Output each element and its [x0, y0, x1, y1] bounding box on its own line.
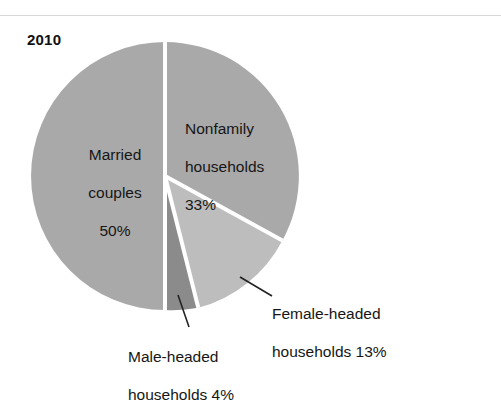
pie-label-married-couples-line1: Married — [60, 145, 170, 164]
pie-label-male-headed-households: Male-headed households 4% — [128, 328, 298, 404]
pie-label-nonfamily-households-line2: households — [185, 157, 315, 176]
pie-label-nonfamily-households-value: 33% — [185, 195, 315, 214]
pie-label-female-headed-households-line1: Female-headed — [272, 304, 432, 323]
pie-label-nonfamily-households-line1: Nonfamily — [185, 119, 315, 138]
pie-label-male-headed-households-line1: Male-headed — [128, 347, 298, 366]
pie-label-married-couples-line2: couples — [60, 183, 170, 202]
leader-line-female-headed — [240, 277, 272, 296]
pie-label-married-couples: Married couples 50% — [60, 126, 170, 259]
pie-label-married-couples-value: 50% — [60, 221, 170, 240]
pie-label-nonfamily-households: Nonfamily households 33% — [185, 100, 315, 233]
pie-label-male-headed-households-line2: households 4% — [128, 385, 298, 404]
